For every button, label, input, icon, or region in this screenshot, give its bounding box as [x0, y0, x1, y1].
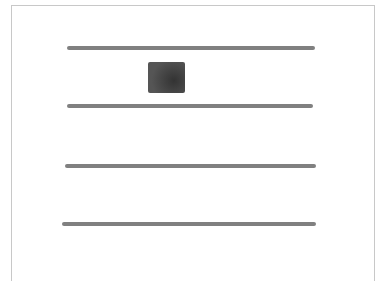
image-placeholder-block	[148, 62, 185, 93]
placeholder-line-3	[65, 164, 316, 168]
placeholder-line-4	[62, 222, 316, 226]
placeholder-line-1	[67, 46, 315, 50]
placeholder-line-2	[67, 104, 313, 108]
